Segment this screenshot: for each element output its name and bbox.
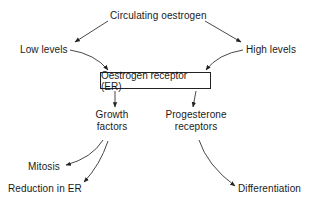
progesterone-receptors-line1: Progesterone	[160, 109, 232, 121]
arrow-circulating-to-high	[205, 21, 241, 42]
diagram-edges	[0, 0, 312, 207]
arrow-circulating-to-low	[75, 21, 108, 42]
node-oestrogen-receptor-box: Oestrogen receptor (ER)	[100, 72, 211, 89]
oestrogen-flow-diagram: Circulating oestrogen Low levels High le…	[0, 0, 312, 207]
node-reduction-in-er: Reduction in ER	[8, 183, 82, 195]
node-growth-factors: Growth factors	[82, 109, 142, 133]
arrow-growth-to-reduction	[84, 141, 108, 182]
node-oestrogen-receptor-label: Oestrogen receptor (ER)	[101, 70, 210, 92]
node-progesterone-receptors: Progesterone receptors	[160, 109, 232, 133]
growth-factors-line1: Growth	[82, 109, 142, 121]
growth-factors-line2: factors	[82, 121, 142, 133]
node-high-levels: High levels	[246, 44, 296, 56]
arrow-high-to-er	[206, 50, 243, 70]
node-circulating-oestrogen: Circulating oestrogen	[110, 10, 207, 22]
progesterone-receptors-line2: receptors	[160, 121, 232, 133]
node-differentiation: Differentiation	[238, 183, 301, 195]
arrow-growth-to-mitosis	[66, 140, 103, 165]
arrow-progesterone-to-differentiation	[199, 140, 235, 186]
arrow-low-to-er	[70, 50, 108, 70]
node-mitosis: Mitosis	[28, 161, 60, 173]
arrow-er-to-progesterone	[193, 91, 196, 107]
node-low-levels: Low levels	[20, 44, 68, 56]
